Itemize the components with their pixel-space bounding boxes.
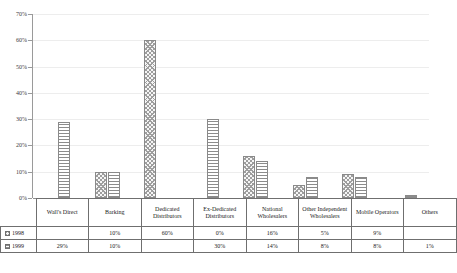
bar-group (380, 14, 430, 198)
data-cell: 8% (351, 240, 404, 253)
series-name: 1999 (12, 243, 24, 249)
data-cell: 16% (246, 227, 299, 240)
data-cell: 60% (141, 227, 194, 240)
data-cell: 30% (194, 240, 247, 253)
data-cell: 10% (89, 227, 142, 240)
bar-group (33, 14, 83, 198)
bar-group (281, 14, 331, 198)
y-axis-tick-label: 20% (16, 142, 27, 148)
category-label: Mobile Operators (351, 199, 404, 227)
data-cell (36, 227, 89, 240)
data-cell: 29% (36, 240, 89, 253)
bar-1999 (355, 177, 367, 198)
legend-swatch-icon (5, 231, 10, 236)
series-legend-1999: 1999 (1, 240, 37, 253)
bar-group (182, 14, 232, 198)
bar-1999 (306, 177, 318, 198)
category-label: Wall's Direct (36, 199, 89, 227)
data-cell: 0% (194, 227, 247, 240)
category-label: Barking (89, 199, 142, 227)
data-cell: 5% (299, 227, 352, 240)
data-table-row: 199929%10%30%14%8%8%1% (1, 240, 457, 253)
category-label: Ex-Dedicated Distributors (194, 199, 247, 227)
category-label: Other Independent Wholesalers (299, 199, 352, 227)
y-axis-tick (28, 67, 32, 68)
data-table-row: 199810%60%0%16%5%9% (1, 227, 457, 240)
category-label: Others (404, 199, 457, 227)
y-axis-tick-label: 60% (16, 37, 27, 43)
category-label: National Wholesalers (246, 199, 299, 227)
data-cell (141, 240, 194, 253)
y-axis-tick-label: 70% (16, 11, 27, 17)
data-table-body: Wall's DirectBarkingDedicated Distributo… (1, 199, 457, 253)
bar-1999 (207, 119, 219, 198)
y-axis-tick (28, 119, 32, 120)
bar-1998 (144, 40, 156, 198)
data-table: Wall's DirectBarkingDedicated Distributo… (0, 198, 457, 253)
table-corner-cell (1, 199, 37, 227)
data-cell: 1% (404, 240, 457, 253)
y-axis-tick (28, 145, 32, 146)
y-axis-tick-label: 30% (16, 116, 27, 122)
data-cell: 9% (351, 227, 404, 240)
legend-swatch-icon (5, 244, 10, 249)
bar-1998 (243, 156, 255, 198)
y-axis-tick (28, 172, 32, 173)
y-axis-tick (28, 40, 32, 41)
series-legend-1998: 1998 (1, 227, 37, 240)
bar-group (132, 14, 182, 198)
bar-group (231, 14, 281, 198)
bar-1998 (293, 185, 305, 198)
bar-group (330, 14, 380, 198)
y-axis-tick (28, 14, 32, 15)
bar-1999 (256, 161, 268, 198)
bar-1999 (58, 122, 70, 198)
category-label: Dedicated Distributors (141, 199, 194, 227)
data-cell (404, 227, 457, 240)
y-axis-labels: 70%60%50%40%30%20%10%0% (0, 0, 30, 205)
y-axis-tick-label: 40% (16, 90, 27, 96)
y-axis-tick-label: 10% (16, 169, 27, 175)
y-axis-tick-label: 50% (16, 64, 27, 70)
bar-1998 (95, 172, 107, 198)
plot-area: 70%60%50%40%30%20%10%0% (0, 0, 429, 205)
data-cell: 14% (246, 240, 299, 253)
bars-container (33, 14, 429, 198)
data-cell: 10% (89, 240, 142, 253)
y-axis-tick (28, 93, 32, 94)
bar-group (83, 14, 133, 198)
data-cell: 8% (299, 240, 352, 253)
bar-1999 (108, 172, 120, 198)
category-header-row: Wall's DirectBarkingDedicated Distributo… (1, 199, 457, 227)
series-name: 1998 (12, 230, 24, 236)
bar-1998 (342, 174, 354, 198)
